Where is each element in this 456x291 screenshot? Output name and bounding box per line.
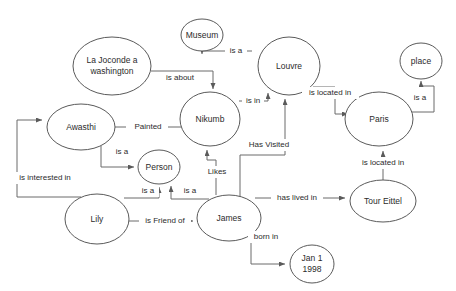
edge-label-born-in-text: born in [254,232,278,241]
node-awasthi[interactable]: Awasthi [47,104,115,150]
knowledge-graph-canvas: La Joconde a washington Museum Louvre pl… [0,0,456,291]
edge-label-awasthi-is-a-person-text: is a [116,147,129,156]
edge-label-has-lived-in: has lived in [271,192,323,204]
node-nikumb-label: Nikumb [196,114,225,124]
edge-label-likes-text: Likes [208,167,227,176]
edge-label-is-in-text: is in [246,96,260,105]
edge-label-has-visited: Has Visited [242,139,296,151]
edge-label-nikumb-is-a-museum: is a [225,45,247,57]
edge-label-has-lived-in-text: has lived in [277,193,317,202]
node-paris-label: Paris [369,114,388,124]
node-nikumb[interactable]: Nikumb [180,92,240,146]
edge-label-louvre-is-located-in-paris-text: is located in [309,88,351,97]
edge-label-tour-eittel-is-located-in-paris: is located in [355,157,412,169]
edge-label-james-is-a-person: is a [179,185,201,197]
node-james-label: James [216,213,241,223]
edge-label-born-in: born in [248,231,284,243]
edge-label-painted: Painted [126,121,168,133]
knowledge-graph-svg: La Joconde a washington Museum Louvre pl… [0,0,456,291]
node-la-joconde-label-line1: La Joconde a [86,55,137,65]
edge-label-paris-is-a-place: is a [410,92,432,104]
node-place-label: place [411,56,432,66]
node-awasthi-label: Awasthi [66,122,96,132]
edge-label-tour-eittel-is-located-in-paris-text: is located in [362,158,404,167]
edge-label-is-interested-in: is interested in [12,172,80,184]
edge-label-awasthi-is-a-person: is a [111,146,133,158]
node-paris[interactable]: Paris [345,92,413,146]
node-lily-label: Lily [91,214,105,224]
edge-label-has-visited-text: Has Visited [249,140,289,149]
node-jan-1-1998-label-line2: 1998 [303,264,322,274]
edge-label-lily-is-a-person-text: is a [142,186,155,195]
node-person[interactable]: Person [138,150,180,184]
edge-label-likes: Likes [201,166,231,178]
edge-label-is-about: is about [161,72,199,84]
node-louvre-label: Louvre [276,61,302,71]
node-museum[interactable]: Museum [181,19,223,51]
edge-label-nikumb-is-a-museum-text: is a [230,46,243,55]
node-lily[interactable]: Lily [65,194,129,244]
edge-label-is-about-text: is about [166,73,195,82]
node-place[interactable]: place [400,43,442,79]
node-tour-eittel[interactable]: Tour Eittel [350,180,416,222]
node-la-joconde-label-line2: washington [89,66,133,76]
node-museum-label: Museum [186,30,219,40]
edge-label-is-interested-in-text: is interested in [19,173,71,182]
edge-label-paris-is-a-place-text: is a [414,93,427,102]
node-tour-eittel-label: Tour Eittel [364,196,402,206]
edge-label-is-friend-of-text: is Friend of [145,216,185,225]
node-la-joconde[interactable]: La Joconde a washington [73,37,151,95]
edge-label-painted-text: Painted [134,122,161,131]
edge-label-louvre-is-located-in-paris: is located in [302,87,359,99]
edge-label-lily-is-a-person: is a [137,185,159,197]
edge-label-is-in: is in [242,95,264,107]
node-person-label: Person [146,162,173,172]
edge-label-james-is-a-person-text: is a [184,186,197,195]
node-louvre[interactable]: Louvre [258,37,320,95]
node-jan-1-1998-label-line1: Jan 1 [302,253,323,263]
node-jan-1-1998[interactable]: Jan 1 1998 [290,245,334,283]
edge-label-is-friend-of: is Friend of [139,215,191,227]
